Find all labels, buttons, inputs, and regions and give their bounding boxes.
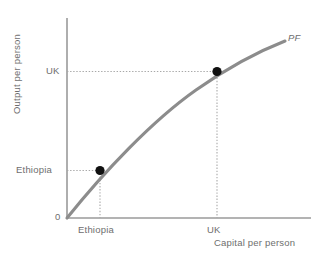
x-tick-label-uk: UK (207, 225, 221, 235)
production-function-chart: Output per person Capital per person 0 U… (0, 0, 324, 259)
chart-canvas (0, 0, 324, 259)
data-point-ethiopia (95, 166, 104, 175)
y-axis-title: Output per person (10, 18, 24, 130)
data-point-uk (212, 67, 221, 76)
production-function-curve (67, 41, 285, 218)
x-axis-title: Capital per person (214, 238, 295, 248)
y-tick-label-uk: UK (46, 66, 60, 76)
y-axis-title-text: Output per person (12, 34, 22, 114)
curve-label-pf: PF (288, 33, 301, 43)
y-tick-label-ethiopia: Ethiopia (16, 165, 52, 175)
x-tick-label-ethiopia: Ethiopia (78, 225, 114, 235)
origin-label: 0 (55, 212, 60, 222)
